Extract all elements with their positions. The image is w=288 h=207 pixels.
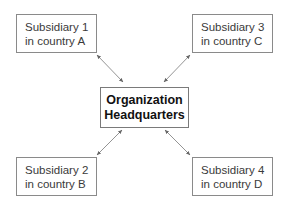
node-label-line2: in country C [201, 34, 272, 48]
node-label-line1: Subsidiary 2 [25, 163, 96, 177]
arrow-hq-subsidiary-3 [164, 55, 190, 82]
node-label-line1: Subsidiary 4 [201, 163, 272, 177]
node-subsidiary-3: Subsidiary 3 in country C [192, 14, 273, 53]
node-label-line1: Organization [106, 93, 182, 108]
node-headquarters: Organization Headquarters [100, 87, 189, 128]
node-label-line2: in country D [201, 177, 272, 191]
node-label-line2: in country B [25, 177, 96, 191]
arrow-hq-subsidiary-1 [97, 55, 123, 82]
node-subsidiary-1: Subsidiary 1 in country A [16, 14, 97, 53]
node-label-line2: Headquarters [104, 108, 185, 123]
node-label-line1: Subsidiary 3 [201, 20, 272, 34]
node-label-line1: Subsidiary 1 [25, 20, 96, 34]
node-subsidiary-4: Subsidiary 4 in country D [192, 157, 273, 196]
node-label-line2: in country A [25, 34, 96, 48]
node-subsidiary-2: Subsidiary 2 in country B [16, 157, 97, 196]
arrow-hq-subsidiary-2 [97, 130, 122, 155]
arrow-hq-subsidiary-4 [165, 130, 190, 155]
